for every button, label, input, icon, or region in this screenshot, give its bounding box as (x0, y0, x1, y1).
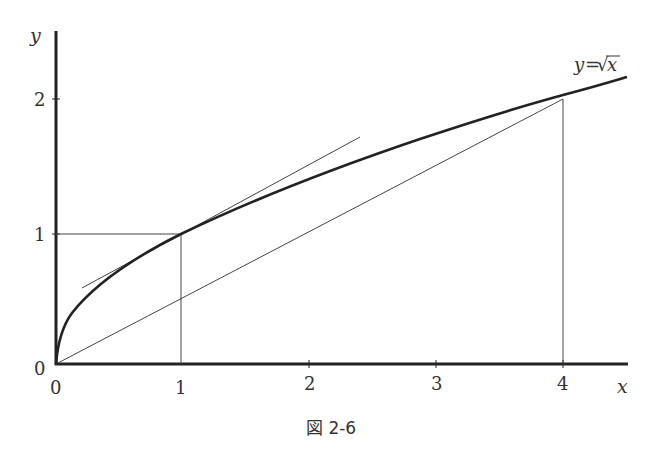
curve-label-y: y (573, 54, 585, 75)
y-tick-label-2: 2 (34, 89, 45, 110)
x-tick-label-0: 0 (50, 377, 61, 398)
sqrt-function-figure: y x 2 1 0 0 1 2 3 4 y = √ x 図 2-6 (0, 0, 655, 459)
y-tick-label-1: 1 (34, 224, 45, 245)
y-tick-label-0: 0 (34, 358, 45, 379)
x-tick-label-1: 1 (175, 377, 186, 398)
curve-label-x: x (607, 54, 617, 75)
sqrt-curve (56, 92, 563, 364)
x-tick-label-2: 2 (304, 373, 315, 394)
curve-label: y = √ x (573, 54, 620, 75)
x-tick-label-3: 3 (431, 373, 442, 394)
figure-caption: 図 2-6 (306, 418, 356, 438)
y-axis-label: y (29, 24, 41, 46)
sqrt-curve-main (56, 77, 627, 364)
tangent-line (82, 137, 360, 288)
x-tick-label-4: 4 (557, 373, 568, 394)
chord-line (56, 99, 563, 364)
x-axis-label: x (617, 375, 628, 397)
